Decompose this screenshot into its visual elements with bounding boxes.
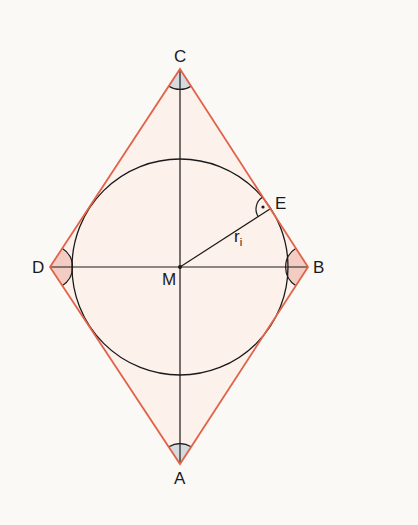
- label-a: A: [174, 469, 186, 488]
- label-b: B: [313, 258, 324, 277]
- label-d: D: [32, 258, 44, 277]
- right-angle-dot: [261, 205, 264, 208]
- label-c: C: [174, 47, 186, 66]
- center-point-m: [178, 265, 182, 269]
- label-e: E: [275, 194, 286, 213]
- label-m: M: [162, 270, 176, 289]
- radius-subscript: i: [240, 236, 242, 248]
- diagram-canvas: C B A D M E ri: [0, 0, 418, 525]
- rhombus-incircle-diagram: C B A D M E ri: [0, 0, 418, 525]
